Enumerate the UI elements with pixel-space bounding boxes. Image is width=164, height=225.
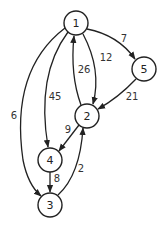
edge-label-4-3: 8: [54, 173, 60, 184]
edge-1-to-3: [21, 28, 65, 196]
node-3: 3: [38, 193, 62, 217]
node-4: 4: [38, 148, 62, 172]
node-1-label: 1: [73, 17, 80, 30]
node-4-label: 4: [47, 154, 54, 167]
edge-label-2-4: 9: [65, 124, 71, 135]
edge-label-3-2: 2: [78, 163, 84, 174]
edge-label-5-2: 21: [126, 91, 139, 102]
node-3-label: 3: [47, 199, 54, 212]
node-5-label: 5: [141, 63, 148, 76]
node-2-label: 2: [84, 110, 91, 123]
graph-diagram: 7 12 26 21 45 6 9 8 2 1 5 2 4 3: [0, 0, 164, 225]
edge-label-1-2: 12: [100, 52, 113, 63]
edge-label-1-5: 7: [121, 33, 127, 44]
node-2: 2: [75, 104, 99, 128]
edge-label-1-3: 6: [11, 110, 17, 121]
node-1: 1: [64, 11, 88, 35]
edge-label-2-1: 26: [78, 64, 91, 75]
edge-label-1-4: 45: [49, 91, 62, 102]
node-5: 5: [132, 57, 156, 81]
